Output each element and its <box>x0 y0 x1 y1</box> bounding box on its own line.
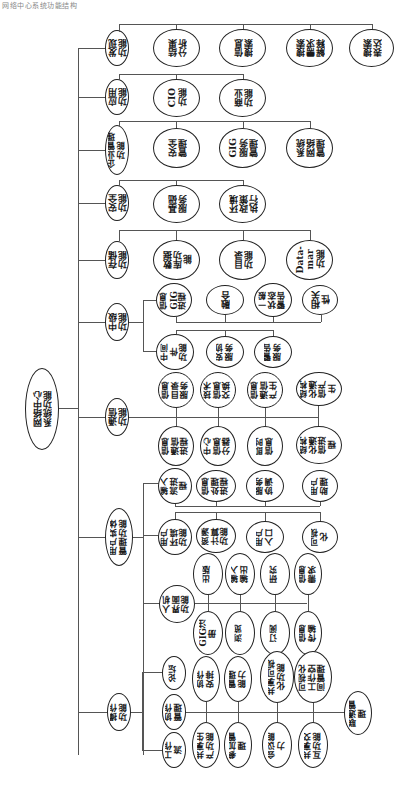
branch-communication: 通信 功能 <box>105 398 129 436</box>
node-security-mgmt: 安全 管理 <box>153 128 200 168</box>
connector <box>265 417 266 426</box>
connector <box>143 351 157 352</box>
node-env-policy-exec: 环境 政策 执行 <box>219 185 266 223</box>
connector <box>176 317 177 322</box>
connector <box>216 502 217 506</box>
node-resource-compute-function: 资源 计算 功能 <box>196 519 236 553</box>
node-central-info-distributor: 中心 信息 分器 <box>200 426 236 466</box>
connector <box>78 203 105 204</box>
connector <box>119 230 120 241</box>
node-info-directory-service: 信息 目录 服务 <box>158 372 194 408</box>
node-instant-info: 即时 信息 <box>247 426 283 466</box>
node-directory-function: 目录 功能 <box>219 240 266 280</box>
connector <box>143 603 160 604</box>
connector <box>318 405 319 417</box>
branch-intermediate: 中级 功能 <box>105 303 129 341</box>
connector <box>78 417 105 418</box>
node-connectivity-mgmt: 联通管 理 <box>344 691 372 735</box>
node-shared-production: 共享生 产功能 <box>192 722 220 768</box>
connector <box>310 230 311 240</box>
node-security-coop-service: 安协 服务 <box>206 336 244 368</box>
connector <box>313 712 314 722</box>
branch-security: 安全 功能 <box>105 185 129 221</box>
node-browse: 浏览 <box>225 611 255 655</box>
connector <box>175 506 320 507</box>
node-datamart-function: Data- mar 功能 <box>286 240 333 280</box>
connector <box>119 121 310 122</box>
node-publish: 出版 <box>193 553 223 595</box>
node-subscribe: 订阅 <box>260 611 290 655</box>
node-shared-visualization: 共享可视 化功能 <box>260 651 294 703</box>
node-tech-info-exchange: 技术 信息 交换 <box>200 372 236 408</box>
node-info-transfer: 信息 传输 <box>294 611 322 655</box>
connector <box>243 230 244 240</box>
connector <box>143 483 144 755</box>
connector <box>208 603 209 611</box>
connector <box>129 417 319 418</box>
connector <box>78 150 105 151</box>
node-structured-comm-generate: 结构 化通 信产 生 <box>296 372 342 406</box>
root-node: 网络中心 系统功能 <box>25 368 59 450</box>
connector <box>265 407 266 417</box>
connector <box>206 712 207 722</box>
branch-user-entity-mgmt: 用户实体 管理功能 <box>105 508 133 566</box>
node-fusion: 融合 <box>206 285 244 315</box>
node-info-gig-process: 信息 GIG 进程 <box>156 283 192 317</box>
branch-application: 应用 功能 <box>105 79 129 115</box>
connector <box>225 315 226 322</box>
node-user-env-function: 用户 环境 功能 <box>158 519 192 555</box>
node-cio-function: CIO 功能 <box>153 79 200 117</box>
node-info-processing-process: 信息 处理 进程 <box>196 470 236 502</box>
connector <box>119 180 243 181</box>
connector <box>176 407 177 417</box>
figure-caption: 网络中心系统功能结构 <box>2 0 77 10</box>
node-middleware-function: 中间 件 功能 <box>156 334 194 370</box>
node-input-stream-process: 输入 流进 程 <box>158 468 192 504</box>
connector <box>133 537 143 538</box>
connector <box>238 702 239 712</box>
node-base-service: 基础 服务 <box>153 185 200 223</box>
node-visualization: 可视 化 <box>302 521 338 553</box>
connector <box>78 48 105 49</box>
connector <box>59 408 78 409</box>
node-participation-mgmt: 参加管 理 <box>224 722 252 768</box>
connector <box>78 97 105 98</box>
node-service-coordination: 服务 协调 <box>246 470 284 502</box>
connector <box>243 121 244 128</box>
connector <box>313 703 314 712</box>
node-info-search: 信息 搜索 <box>219 29 266 67</box>
connector <box>119 121 120 126</box>
connector <box>119 74 243 75</box>
connector <box>78 260 105 261</box>
node-user-portal: 用户 入口 <box>246 521 284 553</box>
node-input-output: 输入 输出 <box>225 553 255 595</box>
node-search-expression: 搜索 表达 <box>349 29 394 67</box>
connector <box>277 703 278 712</box>
connector <box>321 315 322 322</box>
node-system-network-mgmt: 系统 网络 管理 <box>286 128 333 168</box>
connector <box>143 535 159 536</box>
connector <box>143 300 144 351</box>
connector <box>310 121 311 128</box>
connector <box>78 322 105 323</box>
node-collab-schedule: 协作 安排 <box>192 656 220 702</box>
connector <box>275 603 276 611</box>
branch-operation: 操作 功能 <box>107 693 131 731</box>
connector <box>275 595 276 603</box>
connector <box>142 672 143 750</box>
connector <box>143 483 159 484</box>
connector <box>78 712 108 713</box>
connector <box>176 322 321 323</box>
connector <box>308 603 309 611</box>
connector <box>175 512 320 513</box>
connector <box>318 417 319 426</box>
node-shared-interaction: 共享交 互功能 <box>298 722 328 768</box>
branch-hmi: 人机 界面 功能 <box>159 585 195 623</box>
node-result-analysis: 结果 分析 <box>153 29 200 67</box>
node-correlation: 相关 性 <box>302 285 338 315</box>
connector <box>218 407 219 417</box>
connector <box>143 300 157 301</box>
node-gig-service-mgmt: GIG 服务 管理 <box>219 128 266 168</box>
node-general-status-warning: 一般 状态 警告 <box>254 283 292 317</box>
connector <box>218 417 219 426</box>
